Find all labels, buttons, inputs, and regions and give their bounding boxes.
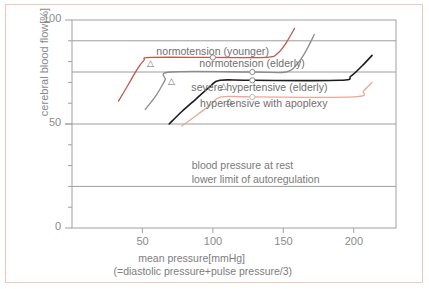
lower-limit-marker-0: △ — [147, 59, 154, 68]
y-axis-title: cerebral blood flow[%] — [38, 0, 50, 132]
x-tick-label: 150 — [274, 235, 292, 247]
x-tick-label: 200 — [345, 235, 363, 247]
chart-page: △△△△normotension (younger)normotension (… — [0, 0, 429, 289]
x-tick-label: 100 — [204, 235, 222, 247]
y-tick-label: 0 — [55, 220, 61, 232]
annotation-0: blood pressure at rest — [192, 159, 294, 171]
lower-limit-marker-1: △ — [168, 77, 175, 86]
series-label-0: normotension (younger) — [156, 45, 269, 57]
annotation-1: lower limit of autoregulation — [192, 173, 320, 185]
series-label-3: hypertensive with apoplexy — [200, 97, 327, 109]
x-axis-subtitle: (=diastolic pressure+pulse pressure/3) — [114, 265, 293, 277]
series-label-1: normotension (elderly) — [199, 57, 305, 69]
x-axis-title: mean pressure[mmHg] — [138, 252, 245, 264]
y-tick-label: 50 — [49, 116, 61, 128]
rest-marker-1 — [250, 69, 255, 74]
x-tick-label: 50 — [136, 235, 148, 247]
series-label-2: severe hypertensive (elderly) — [191, 81, 327, 93]
